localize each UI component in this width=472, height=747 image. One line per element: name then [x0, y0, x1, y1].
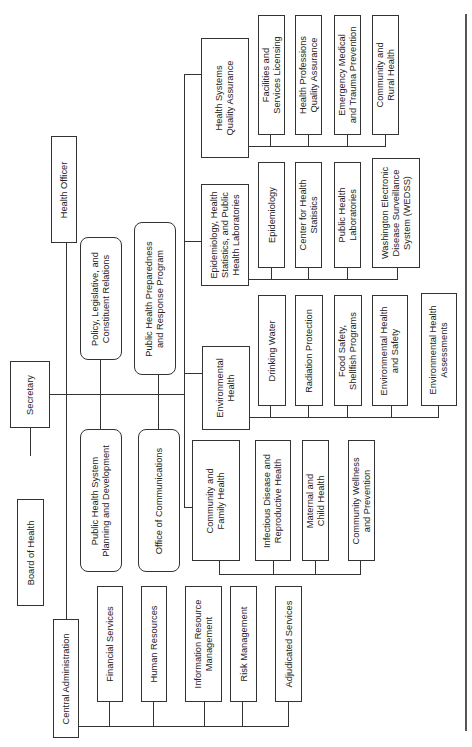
node-risk-management: Risk Management: [230, 586, 257, 702]
node-label: Policy, Legislative, and Constituent Rel…: [90, 252, 112, 346]
node-label: Environmental Health and Safety: [379, 306, 401, 395]
node-public-health-laboratories: Public Health Laboratories: [334, 162, 361, 268]
connector: [100, 358, 101, 430]
connector: [49, 394, 185, 395]
node-env-health-assessments: Environmental Health Assessments: [421, 293, 457, 406]
connector: [184, 74, 202, 75]
node-center-health-statistics: Center for Health Statistics: [295, 162, 322, 268]
node-label: Maternal and Child Health: [305, 473, 327, 527]
connector: [184, 74, 185, 507]
node-label: Human Resources: [149, 606, 160, 683]
node-label: Central Administration: [61, 633, 72, 724]
node-epidemiology: Epidemiology: [258, 162, 285, 268]
node-wedss: Washington Electronic Disease Surveillan…: [372, 158, 420, 268]
node-adjudicated-services: Adjudicated Services: [275, 586, 302, 702]
connector: [30, 426, 31, 456]
connector: [385, 134, 386, 146]
page-edge-line: [465, 14, 467, 731]
node-label: Community and Rural Health: [375, 42, 397, 107]
node-label: Financial Services: [105, 606, 116, 681]
node-radiation-protection: Radiation Protection: [295, 295, 323, 406]
node-label: Environmental Health Assessments: [428, 305, 450, 394]
node-label: Information Resource Management: [193, 600, 215, 689]
connector: [391, 405, 392, 417]
connector: [315, 560, 316, 574]
node-label: Center for Health Statistics: [298, 180, 320, 251]
connector: [184, 241, 202, 242]
node-label: Facilities and Services Licensing: [261, 36, 283, 114]
node-label: Community Wellness and Prevention: [351, 457, 373, 544]
node-label: Emergency Medical and Trauma Prevention: [337, 27, 359, 124]
connector: [270, 405, 271, 417]
connector: [153, 701, 154, 726]
node-label: Epidemiology, Health Statistics, and Pub…: [209, 191, 242, 278]
node-secretary: Secretary: [10, 361, 50, 428]
connector: [248, 146, 386, 147]
node-food-safety: Food Safety, Shellfish Programs: [334, 295, 362, 406]
connector: [78, 726, 289, 727]
node-label: Health Professions Quality Assurance: [298, 36, 320, 114]
node-label: Washington Electronic Disease Surveillan…: [380, 167, 413, 259]
connector: [248, 417, 439, 418]
node-office-of-communications: Office of Communications: [138, 429, 180, 572]
node-human-resources: Human Resources: [141, 586, 167, 702]
node-label: Environmental Health: [215, 358, 237, 417]
node-epidemiology-division: Epidemiology, Health Statistics, and Pub…: [201, 184, 249, 286]
connector: [184, 373, 202, 374]
node-label: Infectious Disease and Reproductive Heal…: [262, 453, 284, 547]
node-label: Risk Management: [238, 607, 249, 682]
connector: [219, 574, 361, 575]
node-label: Radiation Protection: [304, 309, 315, 393]
node-community-family-health: Community and Family Health: [192, 440, 240, 561]
connector: [109, 701, 110, 726]
node-public-health-system-planning: Public Health System Planning and Develo…: [80, 429, 122, 572]
connector: [242, 701, 243, 726]
node-community-rural-health: Community and Rural Health: [372, 15, 399, 135]
connector: [397, 267, 398, 279]
connector: [158, 374, 159, 430]
node-central-administration: Central Administration: [53, 619, 79, 738]
node-policy-legislative: Policy, Legislative, and Constituent Rel…: [80, 237, 122, 360]
node-label: Public Health System Planning and Develo…: [90, 445, 112, 557]
node-label: Public Health Preparedness and Response …: [144, 241, 166, 356]
connector: [288, 701, 289, 726]
node-env-health-safety: Environmental Health and Safety: [372, 295, 408, 406]
node-label: Drinking Water: [267, 320, 278, 381]
node-information-resource-management: Information Resource Management: [185, 586, 222, 702]
node-label: Board of Health: [25, 520, 36, 585]
node-label: Public Health Laboratories: [337, 188, 359, 243]
node-label: Office of Communications: [154, 447, 165, 553]
connector: [271, 267, 272, 279]
node-board-of-health: Board of Health: [17, 499, 44, 606]
connector: [347, 405, 348, 417]
node-health-systems-qa: Health Systems Quality Assurance: [201, 38, 249, 158]
connector: [308, 405, 309, 417]
connector: [438, 405, 439, 417]
node-maternal-child-health: Maternal and Child Health: [302, 440, 329, 561]
node-label: Secretary: [25, 375, 36, 415]
node-public-health-preparedness: Public Health Preparedness and Response …: [134, 222, 176, 375]
node-label: Food Safety, Shellfish Programs: [337, 311, 359, 389]
node-infectious-disease: Infectious Disease and Reproductive Heal…: [255, 440, 291, 561]
node-health-officer: Health Officer: [51, 136, 77, 243]
node-label: Health Systems Quality Assurance: [214, 61, 236, 136]
connector: [347, 267, 348, 279]
node-community-wellness: Community Wellness and Prevention: [348, 440, 375, 561]
node-health-professions-qa: Health Professions Quality Assurance: [295, 15, 322, 135]
connector: [347, 134, 348, 146]
node-facilities-licensing: Facilities and Services Licensing: [258, 15, 285, 135]
connector: [204, 701, 205, 726]
connector: [308, 267, 309, 279]
node-label: Health Officer: [59, 161, 70, 218]
connector: [273, 560, 274, 574]
node-environmental-health: Environmental Health: [202, 346, 250, 430]
connector: [248, 279, 398, 280]
node-label: Adjudicated Services: [283, 601, 294, 688]
node-drinking-water: Drinking Water: [258, 295, 286, 406]
connector: [66, 240, 67, 632]
connector: [270, 134, 271, 146]
node-financial-services: Financial Services: [97, 586, 123, 702]
connector: [219, 560, 220, 574]
connector: [308, 134, 309, 146]
node-label: Epidemiology: [266, 187, 277, 243]
